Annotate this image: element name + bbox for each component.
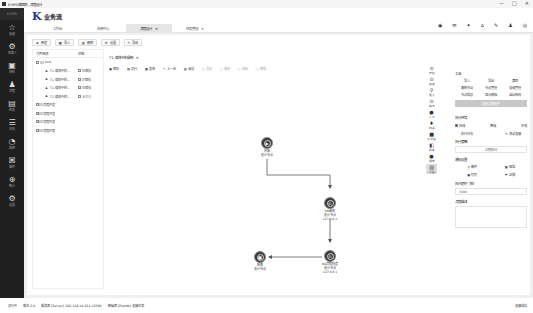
sidebar-item-8[interactable]: ⊕统计 (0, 172, 24, 191)
运行-tool[interactable]: ▤运行 (127, 66, 137, 71)
close-button[interactable]: ✕ (525, 0, 529, 6)
tool-导出[interactable]: 导出 (479, 78, 503, 83)
导入-button[interactable]: ▦导入 (55, 39, 74, 46)
checkbox[interactable] (36, 61, 39, 64)
导出-button[interactable]: ✎导出 (124, 39, 143, 46)
tree-item-status: 已保存 (78, 85, 91, 90)
notify-3[interactable]: ⚑ 企微 (493, 172, 528, 177)
tree-folder[interactable]: 流程开发 (33, 109, 103, 118)
tree-item[interactable]: ♟T1-编排中的...已保存 (33, 84, 103, 93)
close-icon[interactable]: ✕ (136, 56, 139, 60)
palette-机器[interactable]: ▧机器 (426, 164, 437, 174)
tab-0[interactable]: 工作台 (34, 24, 80, 33)
sidebar-item-9[interactable]: ⚙设置 (0, 191, 24, 210)
palette-网关[interactable]: ♦网关 (426, 120, 437, 130)
tool-清除[interactable]: 清除 (503, 78, 527, 83)
tab-1[interactable]: 应用中心 (80, 24, 126, 33)
tool-导入[interactable]: 导入 (455, 78, 479, 83)
opt-local[interactable]: 本地 (521, 123, 527, 128)
timeout-input[interactable]: 3600 (455, 188, 527, 195)
palette-人工[interactable]: ●人工 (426, 109, 437, 119)
header-icon-0[interactable]: ◉ (438, 22, 442, 28)
sidebar-item-6[interactable]: ◔监控 (0, 134, 24, 153)
tool-icon: ↶ (163, 67, 166, 71)
flow-node-n2[interactable]: ✇OA流程创建设计节点127.0.0.1 (315, 250, 345, 274)
sidebar-item-3[interactable]: ♟流程 (0, 77, 24, 96)
nav-label: 任务 (9, 108, 15, 112)
tool-icon: ▦ (145, 67, 148, 71)
close-icon[interactable]: ✕ (155, 27, 158, 31)
新建-button[interactable]: ⊕新建 (32, 39, 51, 46)
tree-item[interactable]: ♟T1-编排中的...已保存 (33, 67, 103, 76)
folder-label: 流程开发 (43, 102, 55, 107)
select-component-bar[interactable]: 选择流程组件 (455, 100, 527, 107)
header-icon-1[interactable]: ✉ (452, 22, 456, 28)
close-icon[interactable]: ✕ (201, 27, 204, 31)
opt-offline[interactable]: 离线 (490, 123, 496, 128)
notify-0[interactable]: ⚲ 邮件 (455, 164, 490, 169)
notify-1[interactable]: ▦ 短信 (493, 164, 528, 169)
发布-tool[interactable]: ▦发布 (145, 66, 155, 71)
palette-结束[interactable]: ⊙结束 (426, 76, 437, 86)
palette-搜索[interactable]: ⚲搜索 (426, 87, 437, 97)
删除-button[interactable]: ▤删除 (78, 39, 97, 46)
保存-tool[interactable]: ▣保存 (109, 66, 119, 71)
调试-tool[interactable]: ▧调试 (184, 66, 194, 71)
tree-folder[interactable]: 流程开发 (33, 101, 103, 110)
tool-icon: ▧ (184, 67, 187, 71)
notify-2[interactable]: ▣ 钉钉 (455, 172, 490, 177)
nav-icon: ☆ (8, 23, 15, 32)
sidebar-item-4[interactable]: ▤任务 (0, 96, 24, 115)
header-icon-5[interactable]: ♟ (508, 22, 512, 28)
test-connection-button[interactable]: ✎ 测试连接 (505, 131, 521, 136)
file-tab[interactable]: T1-编排中的调用 ✕ (109, 55, 139, 60)
exec-log-button[interactable]: 执行日志 (461, 131, 473, 136)
window-title: K-RPA编辑器 - 流程设计 (8, 2, 42, 7)
tree-item[interactable]: ♟T1-编排中的...已保存 (33, 75, 103, 84)
flow-node-end[interactable]: ■结束设计节点 (245, 251, 275, 271)
window-titlebar: K-RPA编辑器 - 流程设计 — □ ✕ (0, 0, 533, 8)
status-item-1: 版本 2.0 (23, 303, 35, 308)
status-item-0: 运行中 (8, 303, 17, 308)
tree-folder[interactable]: 流程开发 (33, 126, 103, 135)
sidebar-item-7[interactable]: ⌘插件 (0, 153, 24, 172)
tree-root[interactable]: test (33, 58, 103, 67)
flow-node-start[interactable]: ▶开始设计节点 (252, 137, 282, 157)
tool-节点管理[interactable]: 节点管理 (479, 85, 503, 90)
flow-node-n1[interactable]: ✇OA审批设计节点127.0.0.1 (315, 197, 345, 221)
设置-button[interactable]: ⚙设置 (101, 39, 120, 46)
tool-节点信息[interactable]: 节点信息 (455, 92, 479, 97)
node-start-icon: ▶ (264, 140, 271, 147)
tool-自动布局[interactable]: 自动布局 (503, 92, 527, 97)
tab-2[interactable]: 流程设计✕ (126, 24, 172, 33)
header-icon-3[interactable]: ⌂ (481, 22, 484, 28)
node-n1-icon: ✇ (327, 200, 334, 207)
palette-脚本[interactable]: ◧脚本 (426, 142, 437, 152)
tool-显示网格[interactable]: 显示网格 (479, 92, 503, 97)
palette-开始[interactable]: ⊙开始 (426, 65, 437, 75)
header-icons: ◉✉✦⌂✎♟◎ (438, 22, 527, 28)
tab-3[interactable]: 任务管理✕ (172, 24, 218, 33)
opt-online[interactable]: 在线 (455, 123, 465, 128)
上一步-tool[interactable]: ↶上一步 (163, 66, 176, 71)
tree-item[interactable]: ♟T1-编排中的...未保存 (33, 92, 103, 101)
palette-等待[interactable]: ⊙等待 (426, 98, 437, 108)
select-bar-label: 选择流程组件 (482, 101, 500, 106)
palette-通知[interactable]: ●通知 (426, 153, 437, 163)
tool-复制节点[interactable]: 复制节点 (455, 85, 479, 90)
maximize-button[interactable]: □ (512, 0, 517, 6)
exec-strategy-title: 执行策略 (455, 139, 527, 144)
palette-子流程[interactable]: ■子流程 (426, 131, 437, 141)
header-icon-2[interactable]: ✦ (467, 22, 471, 28)
sidebar-item-0[interactable]: ☆收藏 (0, 20, 24, 39)
tool-连线管理[interactable]: 连线管理 (503, 85, 527, 90)
description-textarea[interactable] (455, 206, 527, 228)
exec-strategy-select[interactable]: 立即执行 (455, 146, 527, 153)
sidebar-item-5[interactable]: ☰日志 (0, 115, 24, 134)
minimize-button[interactable]: — (499, 0, 504, 6)
tree-folder[interactable]: 流程开发 (33, 118, 103, 127)
header-icon-4[interactable]: ✎ (494, 22, 498, 28)
header-icon-6[interactable]: ◎ (523, 22, 527, 28)
sidebar-item-2[interactable]: ▣资料 (0, 58, 24, 77)
sidebar-item-1[interactable]: ⚙机器人 (0, 39, 24, 58)
